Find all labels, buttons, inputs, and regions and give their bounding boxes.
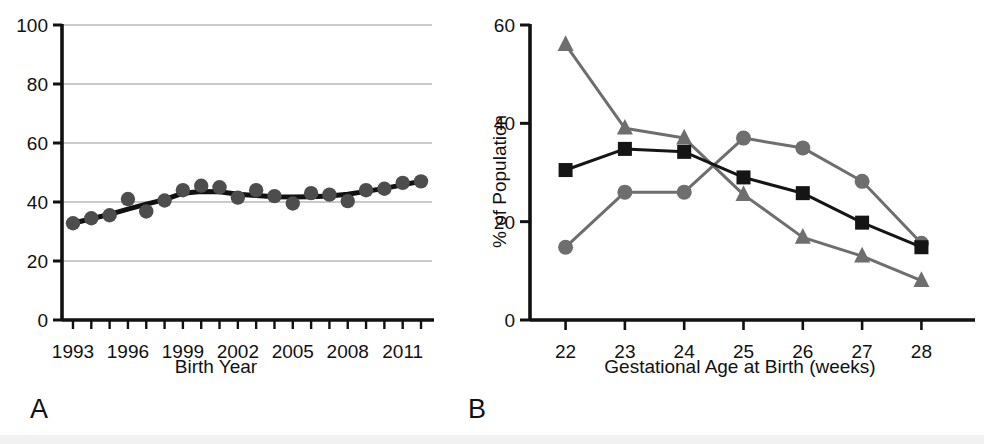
data-point [377, 182, 391, 196]
data-point [102, 208, 116, 222]
data-point [414, 174, 428, 188]
panel-b-letter: B [468, 396, 486, 423]
y-tick-label: 80 [27, 74, 48, 95]
data-point [267, 189, 281, 203]
data-point [84, 211, 98, 225]
y-tick-label: 20 [27, 251, 48, 272]
data-point-square [855, 216, 869, 230]
panel-a-plot-area: 0204060801001993199619992002200520082011 [16, 15, 434, 362]
data-point [322, 187, 336, 201]
panel-b-x-axis-title: Gestational Age at Birth (weeks) [530, 356, 950, 378]
data-point-circle [795, 140, 810, 155]
y-tick-label: 0 [504, 310, 515, 331]
data-point-square [618, 142, 632, 156]
series-line-0 [566, 45, 922, 281]
data-point-circle [558, 240, 573, 255]
data-point-square [737, 170, 751, 184]
data-point-circle [855, 174, 870, 189]
data-point [121, 192, 135, 206]
data-point-triangle [795, 228, 811, 244]
data-point [194, 179, 208, 193]
data-point-square [796, 186, 810, 200]
data-point [249, 183, 263, 197]
panel-b-plot-area: 020406022232425262728 [494, 15, 975, 362]
data-point-circle [736, 131, 751, 146]
data-point-square [914, 240, 928, 254]
panel-a-letter: A [30, 396, 48, 423]
data-point-square [677, 145, 691, 159]
y-tick-label: 60 [27, 133, 48, 154]
data-point [66, 216, 80, 230]
data-point [212, 180, 226, 194]
data-point [341, 194, 355, 208]
panel-a-chart: 0204060801001993199619992002200520082011… [0, 0, 492, 444]
panel-a-x-axis-title: Birth Year [0, 356, 432, 378]
data-point [359, 183, 373, 197]
page-edge-band [0, 435, 984, 444]
data-point [231, 190, 245, 204]
data-point [304, 186, 318, 200]
y-tick-label: 60 [494, 15, 515, 36]
figure-container: 0204060801001993199619992002200520082011… [0, 0, 984, 444]
y-tick-label: 40 [27, 192, 48, 213]
y-tick-label: 100 [16, 15, 48, 36]
panel-b-y-axis-title: % of Population [489, 115, 511, 248]
y-tick-label: 0 [37, 310, 48, 331]
data-point [139, 204, 153, 218]
data-point [157, 193, 171, 207]
data-point [286, 196, 300, 210]
data-point-triangle [558, 35, 574, 51]
panel-b-chart: 020406022232425262728 B Gestational Age … [492, 0, 984, 444]
data-point [176, 183, 190, 197]
data-point-circle [617, 185, 632, 200]
data-point-square [559, 163, 573, 177]
data-point [395, 176, 409, 190]
data-point-circle [677, 185, 692, 200]
